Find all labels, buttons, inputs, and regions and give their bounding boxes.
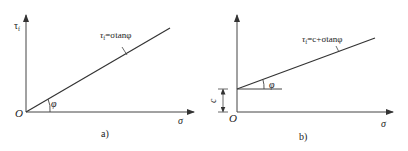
x-axis-label-b: σ	[381, 118, 387, 129]
panel-b: c τf=c+σtanφ φ O σ b)	[207, 15, 393, 143]
panel-a: τf τf=σtanφ φ O σ a)	[14, 15, 194, 140]
leader-line-a	[122, 47, 127, 55]
caption-b: b)	[299, 131, 307, 143]
equation-a: τf=σtanφ	[100, 30, 131, 41]
origin-label-a: O	[15, 107, 23, 119]
strength-line-b	[237, 38, 375, 89]
equation-b: τf=c+σtanφ	[302, 34, 342, 45]
angle-arc-b	[263, 80, 264, 89]
caption-a: a)	[101, 128, 109, 140]
intercept-label-c: c	[207, 98, 218, 103]
angle-label-b: φ	[269, 79, 275, 90]
angle-arc-a	[48, 99, 50, 112]
leader-line-b	[336, 46, 339, 52]
origin-label-b: O	[229, 112, 237, 124]
strength-line-a	[26, 28, 170, 112]
y-axis-label-a: τf	[14, 20, 20, 32]
angle-label-a: φ	[51, 98, 57, 109]
mohr-coulomb-diagram: τf τf=σtanφ φ O σ a) c τf=c+σtanφ φ O σ …	[0, 0, 408, 151]
x-axis-label-a: σ	[178, 115, 184, 126]
